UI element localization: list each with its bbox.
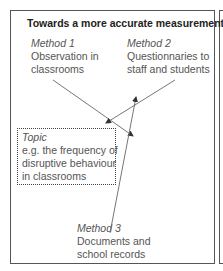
method-1-arrow [53,80,133,136]
arrows-layer [0,0,223,271]
method-2-arrow [106,80,175,123]
method-3-arrow [110,97,136,233]
